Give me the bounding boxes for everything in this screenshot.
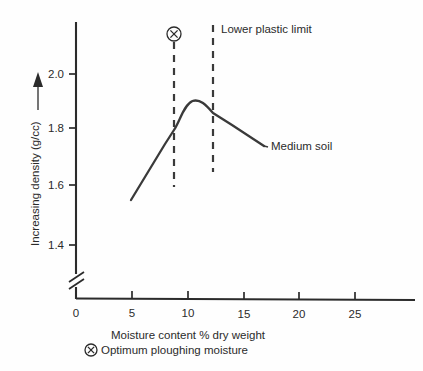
y-tick-label-1.6: 1.6 xyxy=(48,179,64,191)
x-tick-label-5: 5 xyxy=(129,307,135,319)
y-tick-label-1.8: 1.8 xyxy=(48,122,64,134)
chart-figure: 2.0 1.8 1.6 1.4 0 5 10 15 20 25 Increasi… xyxy=(0,0,423,371)
leader-line-medium-soil xyxy=(264,146,268,147)
y-axis-title: Increasing density (g/cc) xyxy=(29,121,41,246)
y-axis-arrow-icon xyxy=(33,72,43,87)
x-tick-label-25: 25 xyxy=(349,308,362,320)
x-axis-line xyxy=(76,299,415,301)
x-tick-label-20: 20 xyxy=(293,308,306,320)
chart-canvas: 2.0 1.8 1.6 1.4 0 5 10 15 20 25 Increasi… xyxy=(0,0,423,371)
annotation-label-lower-plastic-limit: Lower plastic limit xyxy=(221,23,313,35)
data-curve-medium-soil xyxy=(131,100,264,200)
caption-optimum-ploughing-moisture: Optimum ploughing moisture xyxy=(101,344,248,356)
x-tick-label-0: 0 xyxy=(73,307,79,319)
y-tick-label-1.4: 1.4 xyxy=(48,239,65,251)
x-tick-label-10: 10 xyxy=(182,307,195,319)
series-label-medium-soil: Medium soil xyxy=(271,140,332,152)
y-tick-label-2.0: 2.0 xyxy=(48,68,64,80)
x-axis-title: Moisture content % dry weight xyxy=(111,329,266,341)
x-tick-label-15: 15 xyxy=(238,308,251,320)
